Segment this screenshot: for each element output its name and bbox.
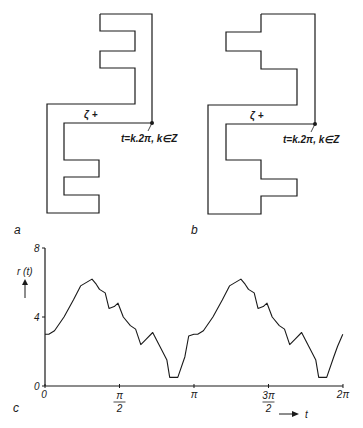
region-outline-a [47,14,152,213]
x-tick-label-denominator: 2 [116,403,123,414]
zeta-label-a: ζ + [84,109,98,121]
x-axis-label: t [305,409,309,420]
point-annotation-a: t=k.2π, k∈Z [121,133,178,144]
panel-label-c: c [13,401,19,415]
panel-a: ζ + t=k.2π, k∈Z a [14,14,178,237]
annotation-leader-a [148,123,152,131]
x-axis-arrow-icon [279,411,299,417]
point-annotation-b: t=k.2π, k∈Z [283,134,340,145]
y-tick-label: 0 [34,381,40,392]
figure-canvas: ζ + t=k.2π, k∈Z a ζ + t=k.2π, k∈Z b 048 … [0,0,363,428]
x-tick-label: π [191,389,198,400]
x-tick-label: 0 [41,389,47,400]
x-tick-label: 2π [336,389,350,400]
x-tick-label-numerator: π [116,390,123,401]
x-tick-label-numerator: 3π [262,390,275,401]
y-tick-label: 8 [34,243,40,254]
r-of-t-curve [45,279,343,377]
panel-label-a: a [14,223,21,237]
x-ticks: 0π2π3π22π [41,384,349,414]
panel-b: ζ + t=k.2π, k∈Z b [191,14,340,237]
panel-label-b: b [191,223,198,237]
y-tick-label: 4 [34,312,40,323]
zeta-label-b: ζ + [250,110,264,122]
y-axis-arrow-icon [22,279,28,298]
y-axis-label: r (t) [17,266,33,277]
annotation-leader-b [311,124,315,132]
panel-c-chart: 048 0π2π3π22π r (t) t c [13,243,349,420]
y-ticks: 048 [34,243,45,392]
x-tick-label-denominator: 2 [265,403,272,414]
